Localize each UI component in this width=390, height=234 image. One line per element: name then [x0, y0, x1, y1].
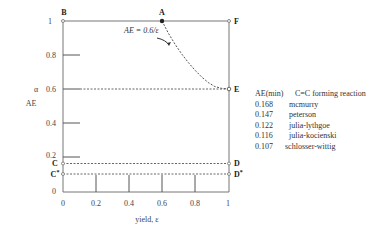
legend-table: AE(min) C=C forming reaction 0.168 mcmur…: [255, 89, 366, 152]
point-D: [228, 162, 231, 165]
legend-ae-value: 0.107: [255, 142, 279, 153]
legend-row: 0.168 mcmurry: [255, 100, 366, 111]
label-D-star: D*: [234, 169, 243, 179]
legend-row: 0.122 julia-lythgoe: [255, 121, 366, 132]
legend-header-ae: AE(min): [255, 89, 295, 100]
label-C: C: [52, 159, 58, 168]
legend-reaction: peterson: [289, 110, 316, 121]
label-C-star: C*: [51, 169, 60, 179]
point-A: [160, 19, 164, 23]
x-tick-label: 0.4: [124, 199, 134, 208]
curve-equation: AE = 0.6/ε: [123, 26, 159, 35]
point-B: [62, 20, 65, 23]
y-tick-label: 0.4: [46, 119, 56, 128]
label-A: A: [159, 8, 165, 17]
legend-ae-value: 0.168: [255, 100, 279, 111]
x-tick-label: 0.6: [157, 199, 167, 208]
legend-reaction: julia-lythgoe: [289, 121, 330, 132]
label-D: D: [234, 159, 240, 168]
x-tick-label: 0.2: [91, 199, 101, 208]
point-C: [62, 162, 65, 165]
legend-ae-value: 0.147: [255, 110, 279, 121]
curve-ae-over-eps: [162, 21, 229, 89]
point-F: [228, 20, 231, 23]
y-tick-label: 0.6: [46, 85, 56, 94]
legend-ae-value: 0.116: [255, 131, 279, 142]
label-B: B: [61, 8, 67, 17]
point-E: [227, 87, 231, 91]
point-C-star: [62, 173, 65, 176]
y-axis-label-ae: AE: [26, 99, 37, 108]
y-tick-label: 1: [48, 17, 52, 26]
label-F: F: [234, 17, 239, 26]
y-tick-label: 0: [52, 187, 56, 196]
x-tick-label: 1: [226, 199, 230, 208]
legend-ae-value: 0.122: [255, 121, 279, 132]
legend-reaction: mcmurry: [289, 100, 318, 111]
legend-reaction: julia-kocienski: [289, 131, 337, 142]
y-axis-label-alpha: α: [34, 85, 39, 94]
label-E: E: [234, 85, 239, 94]
legend-row: 0.116 julia-kocienski: [255, 131, 366, 142]
legend-row: 0.147 peterson: [255, 110, 366, 121]
point-D-star: [228, 173, 231, 176]
y-tick-label: 0.8: [46, 51, 56, 60]
x-axis-label: yield, ε: [135, 215, 159, 224]
legend-header: AE(min) C=C forming reaction: [255, 89, 366, 100]
legend-reaction: schlosser-wittig: [285, 142, 336, 153]
x-tick-label: 0: [61, 199, 65, 208]
x-tick-label: 0.8: [190, 199, 200, 208]
legend-row: 0.107 schlosser-wittig: [255, 142, 366, 153]
legend-header-reaction: C=C forming reaction: [295, 89, 366, 100]
annotation-arrow: [157, 38, 169, 45]
